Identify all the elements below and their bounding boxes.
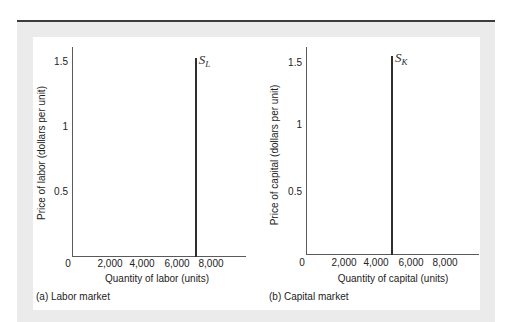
x-axis: [72, 256, 246, 257]
x-axis-title: Quantity of capital (units): [293, 273, 493, 285]
y-axis-title: Price of labor (dollars per unit): [36, 53, 48, 253]
capital-supply-curve: [391, 56, 393, 255]
y-tick-label: 0.5: [272, 186, 302, 198]
x-tick-label: 8,000: [425, 257, 465, 269]
labor-supply-curve: [195, 58, 197, 257]
y-tick-label: 1.5: [38, 56, 68, 68]
x-tick-label: 8,000: [191, 258, 231, 270]
y-tick-label: 0.5: [38, 186, 68, 198]
x-axis-title: Quantity of labor (units): [57, 273, 257, 285]
y-tick-label: 1.5: [272, 57, 302, 69]
y-axis: [72, 47, 73, 257]
origin-label: 0: [48, 258, 88, 270]
y-axis-title: Price of capital (dollars per unit): [269, 55, 281, 255]
panel-caption: (b) Capital market: [269, 291, 348, 303]
y-tick-label: 1: [38, 121, 68, 133]
x-tick-label: 4,000: [356, 257, 396, 269]
x-tick-label: 4,000: [122, 258, 162, 270]
curve-subscript: L: [205, 59, 210, 69]
y-axis: [306, 47, 307, 255]
supply-curve-label: SK: [395, 51, 408, 66]
origin-label: 0: [282, 257, 322, 269]
curve-subscript: K: [402, 57, 408, 67]
y-tick-label: 1: [272, 119, 302, 131]
supply-curve-label: SL: [199, 53, 211, 68]
panel-caption: (a) Labor market: [36, 291, 110, 303]
curve-symbol: S: [395, 50, 402, 65]
figure: Price of labor (dollars per unit) 1.5 1 …: [0, 0, 514, 322]
